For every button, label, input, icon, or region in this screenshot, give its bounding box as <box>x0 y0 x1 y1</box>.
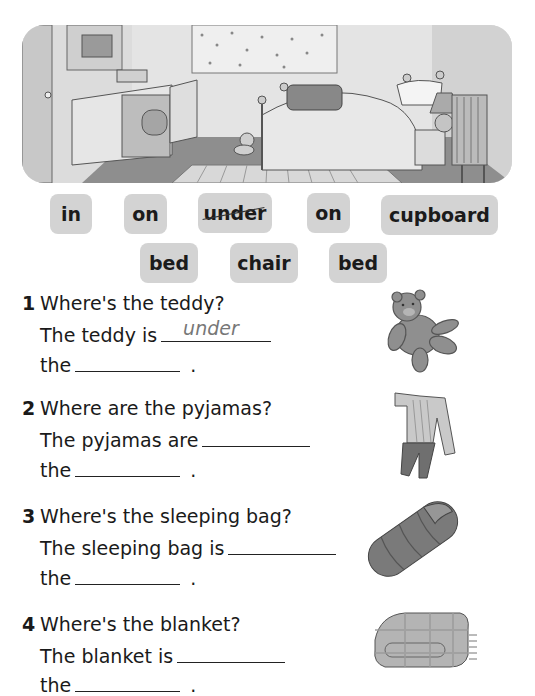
blanket-picture <box>365 605 480 679</box>
full-stop: . <box>190 354 196 376</box>
word-chip-label: bed <box>149 252 189 274</box>
answer-stem: the <box>40 674 71 696</box>
full-stop: . <box>190 567 196 589</box>
question-text: Where's the teddy? <box>40 292 225 314</box>
answer-stem: the <box>40 354 71 376</box>
answer-stem: the <box>40 567 71 589</box>
word-chip-label: chair <box>237 252 291 274</box>
word-chip-bed[interactable]: bed <box>140 243 198 283</box>
answer-blank-2[interactable] <box>75 458 180 477</box>
word-chip-under-crossed[interactable]: under <box>198 193 272 233</box>
word-chip-label: under <box>204 202 267 224</box>
sleeping-bag-picture <box>358 494 468 588</box>
answer-blank-1[interactable]: under <box>161 323 271 342</box>
answer-blank-1[interactable] <box>202 428 310 447</box>
word-chip-label: cupboard <box>389 204 490 226</box>
word-chip-in[interactable]: in <box>50 194 92 234</box>
word-chip-cupboard[interactable]: cupboard <box>381 195 498 235</box>
answer-blank-2[interactable] <box>75 566 180 585</box>
answer-blank-1[interactable] <box>228 536 336 555</box>
word-chip-on[interactable]: on <box>307 193 350 233</box>
word-chip-chair[interactable]: chair <box>230 243 298 283</box>
teddy-bear-picture <box>365 285 465 379</box>
answer-blank-2[interactable] <box>75 673 180 692</box>
word-chip-label: bed <box>338 252 378 274</box>
question-number: 3 <box>22 505 35 527</box>
question-text: Where's the blanket? <box>40 613 241 635</box>
answer-stem: the <box>40 459 71 481</box>
question-number: 4 <box>22 613 35 635</box>
question-number: 1 <box>22 292 35 314</box>
word-chip-label: in <box>61 203 81 225</box>
word-chip-label: on <box>132 203 159 225</box>
pyjamas-picture <box>375 388 465 487</box>
full-stop: . <box>190 459 196 481</box>
answer-stem: The teddy is <box>40 324 157 346</box>
filled-answer: under <box>183 317 239 339</box>
full-stop: . <box>190 674 196 696</box>
word-chip-bed[interactable]: bed <box>329 243 387 283</box>
answer-stem: The sleeping bag is <box>40 537 224 559</box>
answer-stem: The blanket is <box>40 645 173 667</box>
question-number: 2 <box>22 397 35 419</box>
question-text: Where's the sleeping bag? <box>40 505 292 527</box>
answer-blank-1[interactable] <box>177 644 285 663</box>
answer-stem: The pyjamas are <box>40 429 198 451</box>
question-text: Where are the pyjamas? <box>40 397 272 419</box>
answer-blank-2[interactable] <box>75 353 180 372</box>
bedroom-illustration <box>22 25 512 183</box>
word-chip-label: on <box>315 202 342 224</box>
word-chip-on[interactable]: on <box>124 194 167 234</box>
